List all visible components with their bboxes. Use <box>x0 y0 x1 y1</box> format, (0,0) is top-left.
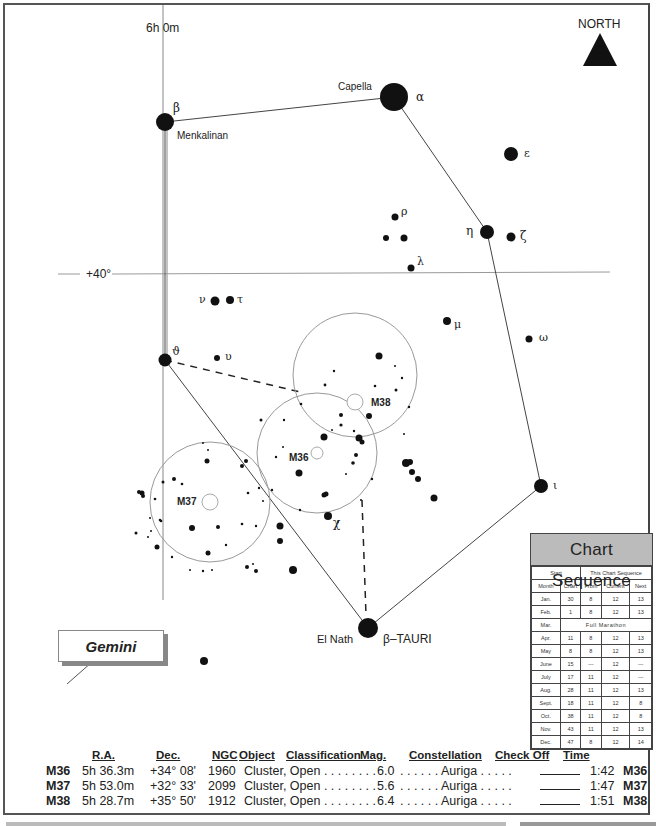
header-ra: R.A. <box>92 749 115 761</box>
star-greek-iota: ι <box>553 479 557 492</box>
check-off-field[interactable] <box>540 764 580 778</box>
star-greek-rho: ρ <box>401 205 407 218</box>
star-greek-eta: η <box>466 224 473 238</box>
table-row: June15---12--- <box>532 658 652 671</box>
star-label-beta-tauri: β–TAURI <box>383 632 432 646</box>
cluster-label-m37: M37 <box>177 496 196 507</box>
star-greek-epsilon: ε <box>524 147 530 160</box>
header-check-off: Check Off <box>495 749 549 761</box>
star-label-menkalinan: Menkalinan <box>177 130 228 141</box>
header-mag: Mag. <box>360 749 386 761</box>
header-ngc: NGC <box>212 749 238 761</box>
header-time: Time <box>563 749 590 761</box>
header-dec: Dec. <box>156 749 180 761</box>
header-object: Object <box>239 749 275 761</box>
star-greek-beta: β <box>173 101 180 115</box>
north-label: NORTH <box>578 17 620 31</box>
star-greek-chi: χ <box>333 516 340 530</box>
table-row: Oct.3811128 <box>532 710 652 723</box>
neighbor-constellation-label: Gemini <box>58 630 164 662</box>
check-off-field[interactable] <box>540 779 580 793</box>
star-greek-nu: ν <box>199 293 206 306</box>
chart-sequence-table: Chart Sequence Start This Chart Sequence… <box>530 533 653 750</box>
cluster-label-m36: M36 <box>289 452 308 463</box>
star-greek-omega: ω <box>539 331 548 344</box>
table-row: Sept.1811128 <box>532 697 652 710</box>
header-constellation: Constellation <box>409 749 482 761</box>
star-label-elnath: El Nath <box>317 633 353 645</box>
table-row: Nov.43111213 <box>532 723 652 736</box>
star-greek-upsilon: υ <box>225 350 232 363</box>
table-row: Feb.181213 <box>532 606 652 619</box>
star-greek-alpha: α <box>416 90 424 104</box>
col-next: Next <box>630 580 652 593</box>
star-greek-theta: ϑ <box>172 345 180 358</box>
star-greek-tau: τ <box>237 293 243 306</box>
table-row: Mar.Full Marathon <box>532 619 652 632</box>
star-label-capella: Capella <box>338 81 372 92</box>
table-row: July171112--- <box>532 671 652 684</box>
north-arrow-icon <box>583 33 617 66</box>
table-row: Apr.1181213 <box>532 632 652 645</box>
star-greek-lambda: λ <box>417 255 424 268</box>
star-greek-mu: μ <box>454 318 461 331</box>
table-row: May881213 <box>532 645 652 658</box>
ra-label: 6h 0m <box>146 21 179 35</box>
dec-label: +40° <box>86 267 111 281</box>
table-row: Aug.28111213 <box>532 684 652 697</box>
chart-sequence-title: Chart Sequence <box>531 534 652 566</box>
check-off-field[interactable] <box>540 794 580 808</box>
star-greek-zeta: ζ <box>520 229 527 243</box>
header-classification: Classification <box>286 749 361 761</box>
table-row: Dec.4781214 <box>532 736 652 749</box>
cluster-label-m38: M38 <box>371 397 390 408</box>
